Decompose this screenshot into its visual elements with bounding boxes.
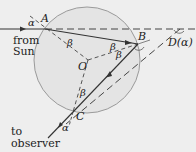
label-alpha-out: α — [62, 122, 69, 133]
label-beta-c: β — [79, 87, 86, 98]
label-beta-b2: β — [115, 49, 122, 60]
label-c: C — [76, 110, 85, 123]
rainbow-raindrop-diagram: A B C O D(α) α α β β β β from Sun to obs… — [0, 0, 196, 152]
label-alpha-in: α — [28, 17, 35, 28]
label-observer: observer — [11, 137, 61, 150]
label-beta-a: β — [66, 37, 73, 48]
label-d-alpha: D(α) — [167, 36, 193, 49]
label-a: A — [40, 12, 49, 25]
arrow-icon — [20, 27, 26, 32]
label-o: O — [78, 60, 87, 73]
label-beta-b1: β — [109, 41, 116, 52]
label-b: B — [137, 30, 146, 43]
label-sun: Sun — [13, 45, 35, 58]
